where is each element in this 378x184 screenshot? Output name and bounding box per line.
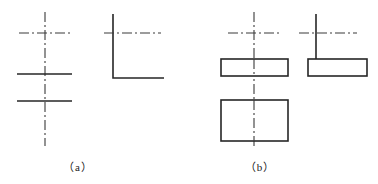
outline-a-side-l-shape — [113, 14, 164, 78]
view-a-front — [17, 12, 72, 146]
view-b-side — [299, 14, 367, 76]
view-b-front — [221, 12, 288, 146]
panel-b — [221, 12, 367, 146]
technical-drawing-figure: （a） （b） — [0, 0, 378, 184]
view-a-side — [104, 14, 164, 78]
caption-panel-a: （a） — [54, 158, 102, 174]
rectangle-b-side — [308, 59, 367, 76]
panel-a — [17, 12, 164, 146]
orthographic-projection-drawing — [0, 0, 378, 184]
caption-panel-b: （b） — [236, 158, 284, 174]
